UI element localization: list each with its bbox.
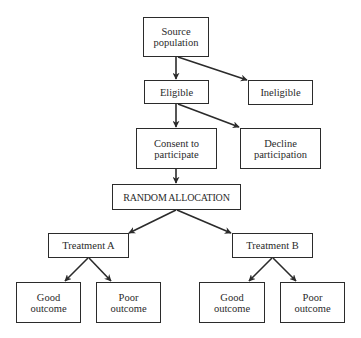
- arrow-source-to-ineligible: [178, 57, 247, 80]
- node-label: Good outcome: [214, 292, 250, 314]
- node-poor-outcome-b: Poor outcome: [280, 282, 345, 323]
- node-label: Good outcome: [30, 292, 66, 314]
- arrow-random-to-treatment-b: [177, 210, 231, 233]
- node-consent: Consent to participate: [136, 128, 217, 169]
- arrow-treatment-a-to-good: [65, 258, 88, 281]
- node-label: Treatment A: [62, 240, 114, 251]
- node-label: Decline participation: [254, 138, 307, 160]
- node-label: RANDOM ALLOCATION: [123, 192, 229, 203]
- node-label: Source population: [154, 26, 199, 48]
- node-ineligible: Ineligible: [248, 80, 313, 105]
- node-treatment-b: Treatment B: [232, 233, 313, 258]
- node-source-population: Source population: [143, 17, 209, 57]
- node-label: Treatment B: [246, 240, 298, 251]
- node-treatment-a: Treatment A: [48, 233, 129, 258]
- node-decline: Decline participation: [240, 128, 321, 169]
- arrow-random-to-treatment-a: [129, 210, 176, 233]
- node-random-allocation: RANDOM ALLOCATION: [112, 184, 241, 210]
- node-poor-outcome-a: Poor outcome: [96, 282, 161, 323]
- node-label: Poor outcome: [294, 292, 330, 314]
- arrow-eligible-to-decline: [178, 104, 239, 127]
- node-label: Consent to participate: [154, 138, 199, 160]
- node-label: Ineligible: [260, 87, 300, 98]
- node-label: Poor outcome: [110, 292, 146, 314]
- node-label: Eligible: [160, 87, 193, 98]
- node-eligible: Eligible: [144, 80, 209, 104]
- arrow-treatment-a-to-poor: [89, 258, 111, 281]
- node-good-outcome-a: Good outcome: [16, 282, 81, 323]
- flowchart-canvas: Source population Eligible Ineligible Co…: [0, 0, 361, 338]
- arrow-treatment-b-to-good: [249, 258, 272, 281]
- arrow-treatment-b-to-poor: [273, 258, 296, 281]
- node-good-outcome-b: Good outcome: [199, 282, 265, 323]
